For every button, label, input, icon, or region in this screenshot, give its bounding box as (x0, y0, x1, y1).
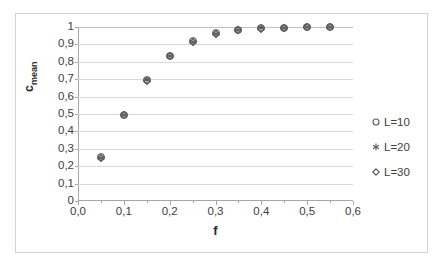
y-axis-title-subscript: mean (29, 62, 39, 86)
y-axis-tick-label: 0,7 (58, 73, 74, 85)
data-point-L30-7 (257, 24, 266, 33)
chart-legend: L=10L=20L=30 (369, 109, 441, 184)
y-axis-tick (75, 184, 78, 185)
data-point-L20-5 (211, 30, 220, 39)
y-axis-tick-label: 0,8 (58, 56, 74, 68)
data-point-L20-3 (165, 52, 174, 61)
x-axis-minor-tick (101, 201, 102, 203)
x-axis-minor-tick (238, 201, 239, 203)
plot-area (78, 27, 353, 201)
y-axis-tick-label: 0,3 (58, 143, 74, 155)
gridline (78, 44, 353, 45)
data-point-L30-5 (211, 30, 220, 39)
legend-label: L=30 (384, 166, 410, 178)
x-axis-tick-labels: 0,00,10,20,30,40,50,6 (78, 206, 353, 224)
gridline (78, 131, 353, 132)
x-axis-tick-label: 0,5 (299, 206, 315, 218)
data-point-L10-7 (257, 24, 266, 33)
gridline (78, 166, 353, 167)
data-point-L20-7 (257, 24, 266, 33)
data-point-L10-0 (97, 153, 106, 162)
chart-frame: 10,90,80,70,60,50,40,30,20,10 0,00,10,20… (15, 13, 428, 253)
y-axis-tick (75, 131, 78, 132)
y-axis-tick (75, 97, 78, 98)
diamond-marker-icon (369, 168, 383, 176)
circle-marker-icon (369, 118, 383, 126)
legend-item-L10[interactable]: L=10 (369, 109, 441, 134)
data-point-L30-1 (120, 111, 129, 120)
y-axis-tick-label: 0,4 (58, 125, 74, 137)
x-axis-tick-label: 0,1 (116, 206, 132, 218)
x-axis-tick-label: 0,3 (208, 206, 224, 218)
x-axis-tick-label: 0,6 (345, 206, 361, 218)
gridline (78, 114, 353, 115)
x-axis-minor-tick (330, 201, 331, 203)
y-axis-tick (75, 27, 78, 28)
x-axis-tick-label: 0,2 (162, 206, 178, 218)
data-point-L20-0 (97, 153, 106, 162)
y-axis-title: cmean (22, 62, 39, 92)
gridline (78, 184, 353, 185)
y-axis-tick-labels: 10,90,80,70,60,50,40,30,20,10 (16, 27, 74, 201)
gridline (78, 149, 353, 150)
y-axis-tick (75, 79, 78, 80)
legend-label: L=20 (384, 141, 410, 153)
x-axis-minor-tick (193, 201, 194, 203)
x-axis-title: f (78, 223, 353, 238)
y-axis-tick (75, 114, 78, 115)
y-axis-title-base: c (22, 85, 36, 92)
data-point-L30-0 (97, 153, 106, 162)
y-axis-tick-label: 0,2 (58, 160, 74, 172)
gridline (78, 97, 353, 98)
x-axis-minor-tick (284, 201, 285, 203)
data-point-L20-1 (120, 111, 129, 120)
y-axis-tick-label: 0,1 (58, 178, 74, 190)
y-axis-tick (75, 149, 78, 150)
legend-item-L20[interactable]: L=20 (369, 134, 441, 159)
data-point-L20-2 (143, 76, 152, 85)
data-point-L30-3 (165, 52, 174, 61)
legend-item-L30[interactable]: L=30 (369, 159, 441, 184)
gridline (78, 27, 353, 28)
data-point-L10-5 (211, 29, 220, 38)
asterisk-marker-icon (369, 143, 383, 151)
legend-label: L=10 (384, 116, 410, 128)
x-axis-tick-label: 0,4 (253, 206, 269, 218)
y-axis-tick-label: 0,5 (58, 108, 74, 120)
x-axis-tick-label: 0,0 (70, 206, 86, 218)
gridline (78, 62, 353, 63)
x-axis-minor-tick (147, 201, 148, 203)
data-point-L10-3 (165, 51, 174, 60)
data-point-L30-2 (143, 76, 152, 85)
y-axis-tick-label: 1 (68, 21, 74, 33)
y-axis-tick (75, 44, 78, 45)
gridline (78, 79, 353, 80)
y-axis-tick (75, 166, 78, 167)
y-axis-tick (75, 201, 78, 202)
y-axis-tick-label: 0,9 (58, 38, 74, 50)
y-axis-tick (75, 62, 78, 63)
y-axis-tick-label: 0,6 (58, 91, 74, 103)
